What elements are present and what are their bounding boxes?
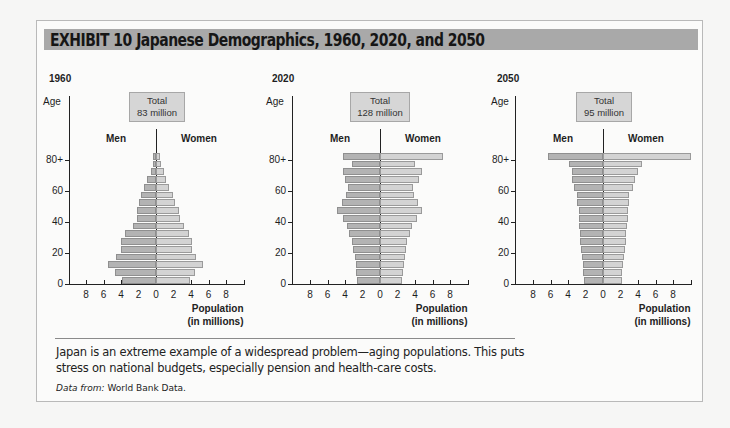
bar-men-20-24	[121, 246, 156, 253]
x-tick	[244, 280, 245, 284]
legend-men: Men	[330, 133, 350, 144]
bar-men-0-4	[584, 277, 603, 284]
x-tick	[209, 280, 210, 284]
x-tick-label: 4	[562, 289, 574, 300]
bar-men-70-74	[572, 168, 604, 175]
bar-men-65-69	[572, 176, 603, 183]
bar-men-5-9	[356, 269, 380, 276]
x-axis-label: Population(in millions)	[144, 302, 244, 328]
bar-women-35-39	[603, 223, 627, 230]
x-axis-label-line2: (in millions)	[591, 315, 691, 328]
bar-men-60-64	[574, 184, 603, 191]
bar-women-35-39	[156, 223, 184, 230]
bar-men-75-79	[569, 161, 603, 168]
x-tick-label: 6	[98, 289, 110, 300]
bar-men-65-69	[147, 176, 156, 183]
total-label: Total	[351, 95, 409, 107]
bar-men-65-69	[345, 176, 380, 183]
exhibit-frame: EXHIBIT 10 Japanese Demographics, 1960, …	[36, 20, 703, 402]
age-axis-label: Age	[43, 96, 61, 107]
x-axis-label-line2: (in millions)	[144, 315, 244, 328]
bar-women-70-74	[380, 168, 422, 175]
x-axis-label-line1: Population	[368, 302, 468, 315]
bar-women-40-44	[156, 215, 180, 222]
bar-men-5-9	[115, 269, 156, 276]
y-tick	[65, 253, 69, 254]
bar-women-40-44	[380, 215, 417, 222]
y-tick-label: 80+	[37, 154, 63, 165]
y-tick	[288, 284, 292, 285]
bar-women-65-69	[156, 176, 166, 183]
x-tick-label: 6	[650, 289, 662, 300]
bar-women-30-34	[380, 230, 410, 237]
bar-men-40-44	[579, 215, 604, 222]
y-tick	[288, 160, 292, 161]
bar-men-10-14	[356, 261, 381, 268]
bar-men-60-64	[144, 184, 156, 191]
age-axis-label: Age	[266, 96, 284, 107]
legend-women: Women	[181, 133, 217, 144]
x-tick-label: 4	[339, 289, 351, 300]
bar-women-45-49	[380, 207, 422, 214]
y-tick-label: 20	[37, 247, 63, 258]
bar-women-50-54	[603, 199, 629, 206]
y-tick	[65, 284, 69, 285]
bar-men-60-64	[348, 184, 380, 191]
caption-divider	[55, 338, 515, 339]
x-tick-label: 8	[444, 289, 456, 300]
bar-women-15-19	[156, 254, 196, 261]
bar-women-50-54	[380, 199, 418, 206]
x-tick	[551, 280, 552, 284]
bar-women-70-74	[156, 168, 164, 175]
exhibit-title: EXHIBIT 10 Japanese Demographics, 1960, …	[50, 30, 485, 50]
year-label: 1960	[49, 73, 71, 84]
x-axis-label-line2: (in millions)	[368, 315, 468, 328]
total-value: 83 million	[130, 107, 184, 119]
bar-women-10-14	[156, 261, 203, 268]
bar-women-15-19	[603, 254, 624, 261]
bar-men-45-49	[579, 207, 604, 214]
x-tick-label: 4	[632, 289, 644, 300]
x-tick-label: 0	[150, 289, 162, 300]
y-tick	[65, 222, 69, 223]
bar-men-35-39	[347, 223, 380, 230]
bar-women-55-59	[156, 192, 173, 199]
bar-men-10-14	[108, 261, 156, 268]
y-tick	[511, 191, 515, 192]
bar-women-60-64	[603, 184, 633, 191]
x-axis	[69, 284, 245, 285]
x-tick-label: 0	[597, 289, 609, 300]
y-axis	[515, 96, 516, 284]
year-label: 2020	[272, 73, 294, 84]
x-tick-label: 4	[115, 289, 127, 300]
x-tick	[468, 280, 469, 284]
bar-men-25-29	[352, 238, 380, 245]
bar-men-50-54	[342, 199, 381, 206]
y-tick-label: 0	[483, 278, 509, 289]
bar-women-5-9	[380, 269, 403, 276]
bar-men-15-19	[355, 254, 380, 261]
y-tick-label: 40	[483, 216, 509, 227]
bar-women-65-69	[603, 176, 635, 183]
x-tick	[86, 280, 87, 284]
bar-men-25-29	[580, 238, 603, 245]
x-axis-label-line1: Population	[144, 302, 244, 315]
y-tick-label: 20	[483, 247, 509, 258]
x-axis-label: Population(in millions)	[591, 302, 691, 328]
data-source: Data from: World Bank Data.	[56, 383, 186, 393]
x-tick	[656, 280, 657, 284]
bar-women-75-79	[156, 161, 161, 168]
bar-men-0-4	[357, 277, 380, 284]
x-tick-label: 4	[185, 289, 197, 300]
bar-men-35-39	[133, 223, 156, 230]
x-tick-label: 8	[220, 289, 232, 300]
bar-men-45-49	[337, 207, 380, 214]
y-tick-label: 0	[37, 278, 63, 289]
bar-women-55-59	[380, 192, 414, 199]
x-tick	[328, 280, 329, 284]
x-tick-label: 6	[203, 289, 215, 300]
bar-men-35-39	[579, 223, 603, 230]
y-tick-label: 0	[260, 278, 286, 289]
x-tick-label: 8	[527, 289, 539, 300]
bar-women-10-14	[380, 261, 404, 268]
